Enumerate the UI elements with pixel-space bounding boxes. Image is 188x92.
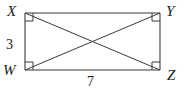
vertex-label-X: X (7, 4, 16, 19)
side-length-label-bottom: 7 (87, 75, 94, 89)
vertex-label-Z: Z (167, 68, 175, 83)
vertex-label-W: W (3, 63, 16, 78)
geometry-figure-canvas: X Y Z W 3 7 (0, 0, 188, 92)
vertex-label-Y: Y (166, 4, 174, 19)
rectangle-diagram-svg (0, 0, 188, 92)
side-length-label-left: 3 (6, 38, 13, 52)
